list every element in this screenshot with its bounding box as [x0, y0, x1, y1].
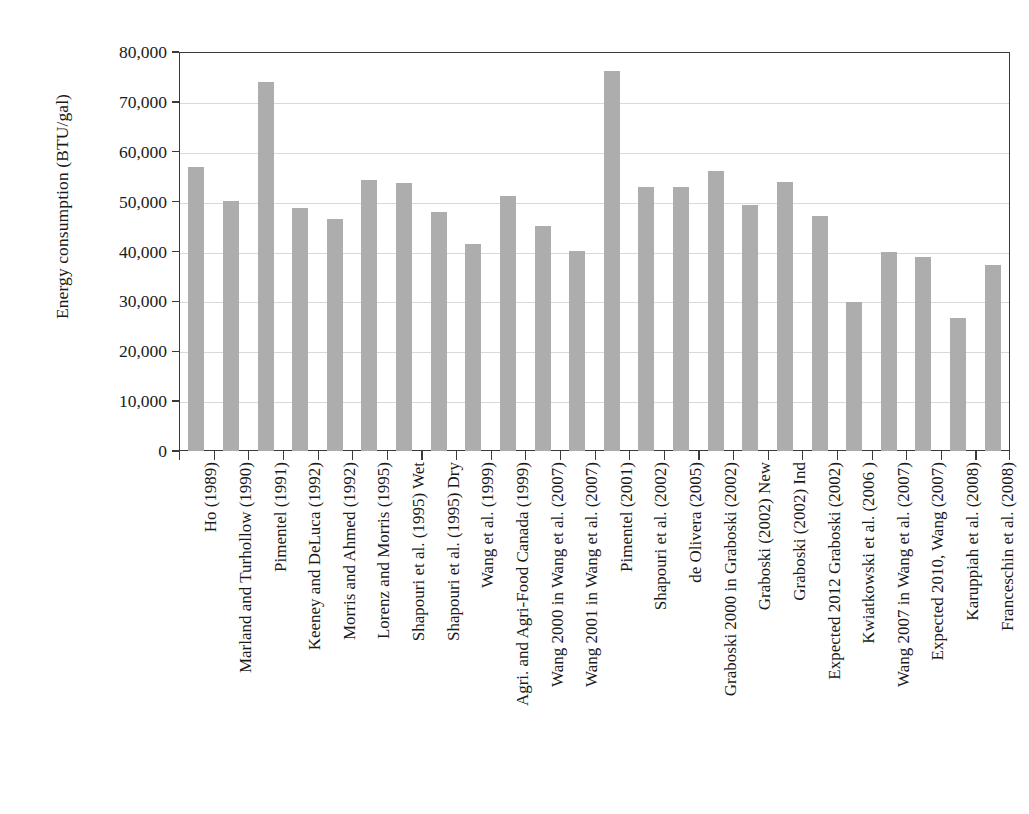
x-axis-tick-label: Ho (1989): [202, 462, 219, 532]
bar: [742, 52, 758, 451]
y-axis-tick-label: 0: [158, 441, 167, 462]
bar: [881, 52, 897, 451]
bar: [915, 52, 931, 451]
x-axis-tick: [179, 451, 180, 460]
x-axis-tick: [1009, 451, 1010, 460]
x-axis-ticks: [179, 451, 1010, 460]
bar: [327, 52, 343, 451]
bar-fill: [465, 244, 481, 451]
y-axis-tick: [172, 201, 179, 202]
bar-fill: [638, 187, 654, 451]
bar-fill: [292, 208, 308, 451]
bar: [258, 52, 274, 451]
x-axis-tick: [872, 451, 873, 460]
bar-fill: [500, 196, 516, 451]
bar: [431, 52, 447, 451]
x-axis-tick-label: Lorenz and Morris (1995): [375, 462, 392, 639]
x-axis-tick-label: Shapouri et al. (1995) Wet: [410, 462, 427, 641]
x-axis-tick: [560, 451, 561, 460]
x-axis-tick: [214, 451, 215, 460]
x-axis-tick-label: Kwiatkowski et al. (2006 ): [860, 462, 877, 644]
y-axis-tick-label: 10,000: [119, 391, 167, 412]
bar: [223, 52, 239, 451]
y-axis-tick-label: 80,000: [119, 42, 167, 63]
bar: [708, 52, 724, 451]
bar-fill: [258, 82, 274, 451]
bar-fill: [812, 216, 828, 451]
x-axis-tick-label: Graboski (2002) New: [756, 462, 773, 610]
x-axis-tick-label: Wang et al. (1999): [479, 462, 496, 588]
y-axis-tick: [172, 301, 179, 302]
y-axis-tick-label: 50,000: [119, 191, 167, 212]
x-axis-tick: [906, 451, 907, 460]
bar-fill: [535, 226, 551, 451]
bar: [638, 52, 654, 451]
bar-fill: [223, 201, 239, 451]
x-axis-tick-label: de Olivera (2005): [687, 462, 704, 583]
bar: [361, 52, 377, 451]
x-axis-tick-label: Pimentel (1991): [272, 462, 289, 572]
bar-fill: [881, 252, 897, 452]
x-axis-tick: [837, 451, 838, 460]
x-axis-tick-label: Franceschin et al. (2008): [999, 462, 1016, 631]
y-axis-tick: [172, 351, 179, 352]
x-axis-tick: [941, 451, 942, 460]
x-axis-tick: [525, 451, 526, 460]
y-axis-tick-label: 60,000: [119, 141, 167, 162]
y-axis-tick: [172, 450, 179, 451]
x-axis-tick: [595, 451, 596, 460]
bar-fill: [915, 257, 931, 451]
x-axis-tick-label: Wang 2007 in Wang et al. (2007): [895, 462, 912, 687]
x-axis-tick-label: Agri. and Agri-Food Canada (1999): [514, 462, 531, 706]
bar-fill: [708, 171, 724, 451]
x-axis-tick-label: Expected 2010, Wang (2007): [929, 462, 946, 661]
bar: [604, 52, 620, 451]
bar-fill: [950, 318, 966, 451]
x-axis-tick: [421, 451, 422, 460]
bar-fill: [846, 302, 862, 451]
bar-fill: [985, 265, 1001, 451]
bar: [777, 52, 793, 451]
x-axis-tick-label: Keeney and DeLuca (1992): [306, 462, 323, 650]
x-axis-tick-label: Wang 2001 in Wang et al. (2007): [583, 462, 600, 687]
bar: [188, 52, 204, 451]
x-axis-tick: [664, 451, 665, 460]
x-axis-tick-label: Pimentel (2001): [618, 462, 635, 572]
y-axis-tick: [172, 151, 179, 152]
y-axis-tick: [172, 251, 179, 252]
bar: [985, 52, 1001, 451]
bar: [535, 52, 551, 451]
x-axis-tick: [283, 451, 284, 460]
x-axis-labels: Ho (1989)Marland and Turhollow (1990)Pim…: [179, 462, 1010, 812]
x-axis-tick-label: Marland and Turhollow (1990): [237, 462, 254, 673]
y-axis-tick-label: 40,000: [119, 241, 167, 262]
x-axis-tick: [248, 451, 249, 460]
x-axis-tick: [768, 451, 769, 460]
bar-fill: [604, 71, 620, 451]
x-axis-tick: [387, 451, 388, 460]
y-axis: 010,00020,00030,00040,00050,00060,00070,…: [0, 52, 179, 451]
x-axis-tick-label: Shapouri et al. (2002): [652, 462, 669, 610]
y-axis-tick-label: 30,000: [119, 291, 167, 312]
x-axis-tick: [491, 451, 492, 460]
bar-fill: [327, 219, 343, 451]
bar: [950, 52, 966, 451]
bar-fill: [673, 187, 689, 451]
bar: [812, 52, 828, 451]
x-axis-tick: [698, 451, 699, 460]
bar-fill: [777, 182, 793, 451]
y-axis-tick-label: 70,000: [119, 91, 167, 112]
bar: [569, 52, 585, 451]
bar-fill: [431, 212, 447, 451]
x-axis-tick-label: Karuppiah et al. (2008): [964, 462, 981, 621]
bar: [846, 52, 862, 451]
bar-chart-figure: Energy consumption (BTU/gal) 010,00020,0…: [0, 0, 1029, 814]
bar: [292, 52, 308, 451]
x-axis-tick: [318, 451, 319, 460]
x-axis-tick: [629, 451, 630, 460]
x-axis-tick-label: Shapouri et al. (1995) Dry: [445, 462, 462, 641]
bar: [500, 52, 516, 451]
x-axis-tick-label: Graboski (2002) Ind: [791, 462, 808, 601]
x-axis-tick: [975, 451, 976, 460]
x-axis-tick-label: Graboski 2000 in Graboski (2002): [722, 462, 739, 696]
